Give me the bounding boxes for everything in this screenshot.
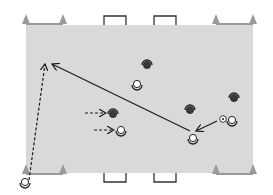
- top-goal-2-icon: [154, 16, 176, 25]
- cone-gate-top-left: [22, 14, 67, 24]
- drill-diagram: [0, 0, 273, 195]
- ball-icon: [220, 116, 227, 123]
- cone-icon: [22, 14, 30, 24]
- cone-icon: [249, 14, 257, 24]
- cone-icon: [212, 14, 220, 24]
- pitch-area: [26, 25, 253, 173]
- top-goal-1-icon: [104, 16, 126, 25]
- bottom-goal-2-icon: [154, 173, 176, 182]
- pitch: [26, 25, 253, 173]
- diagram-canvas: [0, 0, 273, 195]
- cone-gate-top-right: [212, 14, 257, 24]
- cone-icon: [59, 14, 67, 24]
- bottom-goal-1-icon: [104, 173, 126, 182]
